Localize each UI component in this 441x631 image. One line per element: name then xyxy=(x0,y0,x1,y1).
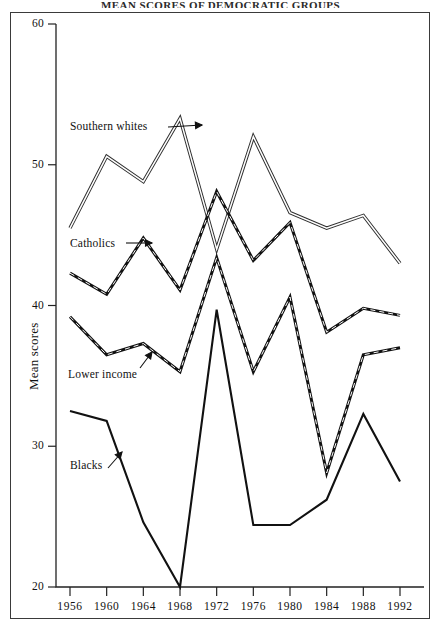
annotation-arrow-layer xyxy=(108,122,202,468)
y-tick-label: 20 xyxy=(22,580,44,592)
y-tick-label: 30 xyxy=(22,439,44,451)
y-tick-label: 50 xyxy=(22,158,44,170)
series-lower-income xyxy=(70,258,400,473)
y-tick-label: 40 xyxy=(22,299,44,311)
annotation-lower-income: Lower income xyxy=(68,368,137,380)
annotation-catholics: Catholics xyxy=(70,237,115,249)
series-southern-whites xyxy=(70,118,400,263)
annotation-southern-whites: Southern whites xyxy=(70,120,147,132)
y-tick-label: 60 xyxy=(22,17,44,29)
series-layer xyxy=(70,118,400,587)
chart-root: MEAN SCORES OF DEMOCRATIC GROUPS Mean sc… xyxy=(0,0,441,631)
annotation-blacks: Blacks xyxy=(70,459,103,471)
chart-plot-area xyxy=(0,0,441,631)
y-axis-label: Mean scores xyxy=(26,322,42,390)
x-tick-label: 1992 xyxy=(376,600,424,612)
